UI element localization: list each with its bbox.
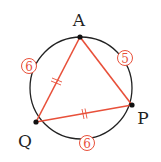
- svg-text:6: 6: [25, 60, 33, 74]
- vertex-a-point: [77, 34, 82, 39]
- svg-text:6: 6: [83, 137, 91, 151]
- side-qp: [36, 105, 132, 122]
- vertex-p-point: [129, 102, 134, 107]
- svg-text:5: 5: [121, 52, 129, 66]
- vertex-label-q: Q: [18, 131, 32, 151]
- side-ap: [80, 37, 132, 105]
- vertex-label-p: P: [137, 108, 148, 128]
- arc-label-aq: 6: [22, 59, 37, 74]
- inscribed-triangle-diagram: A P Q 6 5 6: [0, 0, 161, 162]
- vertex-label-a: A: [72, 10, 86, 30]
- arc-label-qp: 6: [80, 136, 95, 151]
- arc-label-ap: 5: [118, 51, 133, 66]
- vertex-q-point: [33, 119, 38, 124]
- circumcircle: [30, 37, 132, 139]
- triangle-apq: [36, 37, 132, 122]
- side-aq: [36, 37, 80, 122]
